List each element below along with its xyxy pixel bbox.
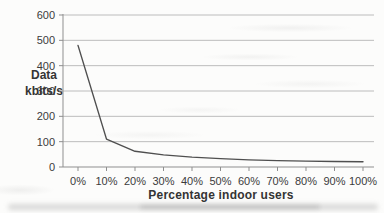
data-series-line — [78, 45, 363, 161]
y-tick-label-300: 300 — [37, 85, 55, 97]
y-tick-label-500: 500 — [37, 34, 55, 46]
y-tick-label-0: 0 — [49, 161, 55, 173]
x-tick-label-90%: 90% — [323, 175, 345, 187]
x-tick-label-70%: 70% — [266, 175, 288, 187]
x-tick-label-80%: 80% — [295, 175, 317, 187]
x-tick-label-0%: 0% — [70, 175, 86, 187]
line-chart-plot-area: 01002003004005006000%10%20%30%40%50%60%7… — [0, 0, 384, 213]
x-tick-label-30%: 30% — [152, 175, 174, 187]
y-tick-label-100: 100 — [37, 136, 55, 148]
x-tick-label-100%: 100% — [349, 175, 377, 187]
x-tick-label-10%: 10% — [95, 175, 117, 187]
x-tick-label-20%: 20% — [124, 175, 146, 187]
y-tick-label-200: 200 — [37, 110, 55, 122]
x-tick-label-40%: 40% — [181, 175, 203, 187]
scan-bleedthrough-smudge — [140, 205, 320, 209]
y-tick-label-400: 400 — [37, 60, 55, 72]
x-axis-title: Percentage indoor users — [131, 188, 311, 202]
y-tick-label-600: 600 — [37, 9, 55, 21]
x-tick-label-50%: 50% — [209, 175, 231, 187]
x-tick-label-60%: 60% — [238, 175, 260, 187]
scanned-chart-page: Data kbits/s 01002003004005006000%10%20%… — [0, 0, 384, 213]
